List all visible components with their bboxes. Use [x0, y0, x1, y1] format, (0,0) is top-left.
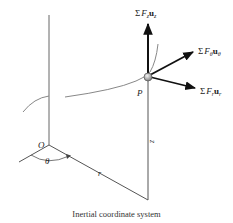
origin-label: O	[38, 140, 45, 150]
theta-arc	[31, 155, 69, 161]
radius-label: r	[98, 169, 102, 178]
force-arrow-r	[150, 77, 195, 88]
force-label-z: ΣFzuz	[135, 8, 157, 19]
particle-path-left	[23, 96, 49, 112]
particle	[144, 73, 152, 81]
particle-path	[65, 44, 158, 97]
point-label: P	[136, 88, 143, 98]
caption: Inertial coordinate system	[72, 209, 161, 219]
height-label: z	[148, 139, 157, 144]
force-label-theta: ΣFθuθ	[198, 46, 221, 57]
force-label-r: ΣFrur	[200, 86, 222, 97]
cylindrical-coordinates-diagram: ΣFzuz ΣFθuθ ΣFrur P O θ r z Inertial coo…	[0, 0, 233, 223]
angle-label: θ	[45, 156, 50, 166]
